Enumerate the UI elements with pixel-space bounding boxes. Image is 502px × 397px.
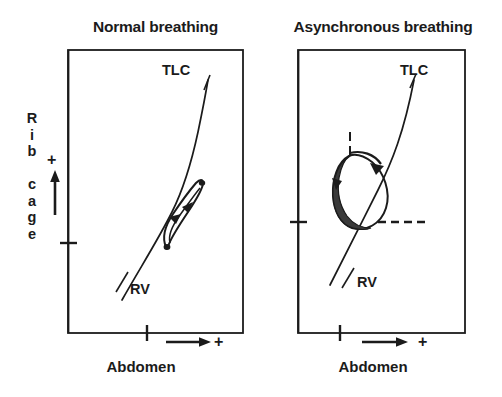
x-axis-plus-right: + bbox=[418, 334, 427, 350]
y-axis-label-char: a bbox=[22, 193, 42, 210]
rv-leader-right bbox=[342, 268, 354, 288]
tlc-label-right: TLC bbox=[400, 62, 428, 78]
isovolume-curve-left bbox=[122, 80, 208, 300]
x-axis-label-left: Abdomen bbox=[86, 358, 196, 375]
x-direction-arrow-left bbox=[166, 337, 211, 347]
rv-label-left: RV bbox=[130, 281, 150, 297]
rv-label-right: RV bbox=[357, 274, 377, 290]
plot-frame-left bbox=[68, 50, 243, 333]
rv-leader-left bbox=[116, 272, 128, 292]
async-loop-thick-margin-right bbox=[333, 156, 371, 230]
y-axis-label-char: R bbox=[22, 110, 42, 127]
y-direction-arrow-left bbox=[50, 170, 60, 215]
y-axis-label-char: g bbox=[22, 209, 42, 226]
y-axis-label-char bbox=[22, 160, 42, 177]
plot-frame-right bbox=[298, 50, 465, 333]
panel-normal-breathing bbox=[50, 50, 243, 347]
tlc-label-left: TLC bbox=[162, 62, 190, 78]
x-axis-plus-left: + bbox=[214, 334, 223, 350]
y-axis-label-char: e bbox=[22, 226, 42, 243]
y-axis-label-left: R i b c a g e bbox=[22, 110, 42, 242]
panel-title-normal: Normal breathing bbox=[68, 18, 243, 36]
loop-knot-upper-left bbox=[199, 180, 205, 186]
x-axis-label-right: Abdomen bbox=[318, 358, 428, 375]
panel-title-asynchronous: Asynchronous breathing bbox=[288, 18, 478, 36]
panel-asynchronous-breathing bbox=[290, 50, 465, 347]
x-direction-arrow-right bbox=[362, 337, 408, 347]
y-axis-label-char: i bbox=[22, 127, 42, 144]
y-axis-label-char: c bbox=[22, 176, 42, 193]
loop-knot-lower-left bbox=[164, 244, 171, 250]
y-axis-plus-left: + bbox=[47, 152, 56, 168]
y-axis-label-char: b bbox=[22, 143, 42, 160]
isovolume-curve-right bbox=[330, 80, 414, 285]
